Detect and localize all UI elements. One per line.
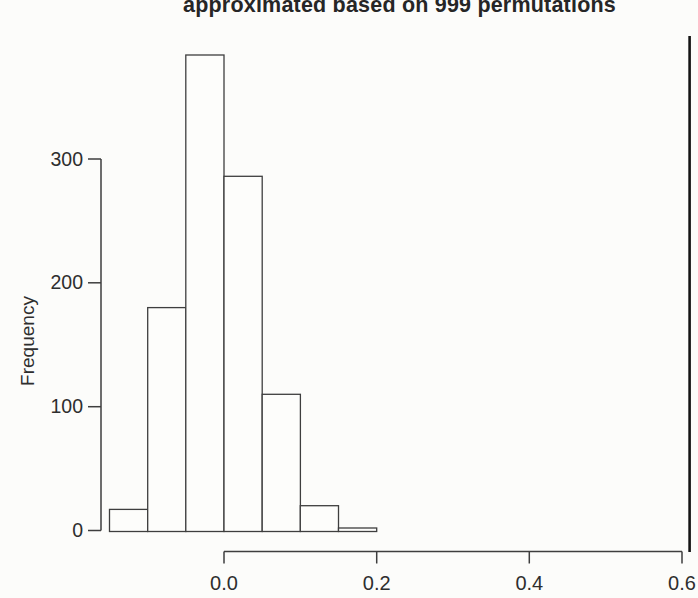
histogram-figure: approximated based on 999 permutations F… (0, 0, 698, 598)
histogram-plot-area: 01002003000.00.20.40.6 (0, 0, 698, 598)
histogram-bar (339, 528, 377, 532)
histogram-bar (300, 506, 338, 532)
y-tick-label: 100 (50, 395, 83, 417)
histogram-bar (110, 509, 148, 531)
histogram-bar (224, 176, 262, 531)
y-tick-label: 300 (50, 148, 83, 170)
histogram-bar (186, 55, 224, 532)
x-tick-label: 0.4 (515, 572, 543, 594)
histogram-bar (148, 308, 186, 532)
y-tick-label: 0 (72, 519, 83, 541)
histogram-bar (262, 394, 300, 531)
y-tick-label: 200 (50, 271, 83, 293)
x-tick-label: 0.6 (668, 572, 696, 594)
x-tick-label: 0.0 (210, 572, 238, 594)
x-tick-label: 0.2 (363, 572, 391, 594)
